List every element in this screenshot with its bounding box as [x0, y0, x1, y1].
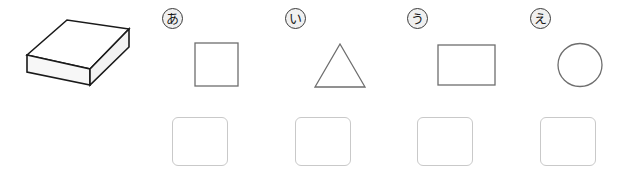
option-label-i: い: [285, 8, 306, 29]
option-label-e: え: [530, 8, 551, 29]
answer-box-e[interactable]: [540, 117, 596, 166]
option-column-2: い: [271, 0, 393, 184]
answer-box-a[interactable]: [172, 117, 228, 166]
shape-triangle: [281, 40, 381, 90]
rectangular-cuboid-figure: [22, 10, 134, 88]
option-column-1: あ: [148, 0, 270, 184]
option-column-4: え: [516, 0, 627, 184]
worksheet-canvas: あ い う え: [0, 0, 627, 184]
option-column-3: う: [393, 0, 515, 184]
answer-box-i[interactable]: [295, 117, 351, 166]
circle-outline: [558, 44, 602, 87]
shape-rectangle: [403, 40, 503, 90]
shape-square: [158, 40, 258, 90]
triangle-outline: [315, 44, 365, 87]
answer-box-u[interactable]: [417, 117, 473, 166]
square-outline: [195, 43, 238, 86]
option-label-u: う: [407, 8, 428, 29]
shape-circle: [526, 40, 626, 90]
rectangle-outline: [438, 45, 495, 85]
option-label-a: あ: [162, 8, 183, 29]
